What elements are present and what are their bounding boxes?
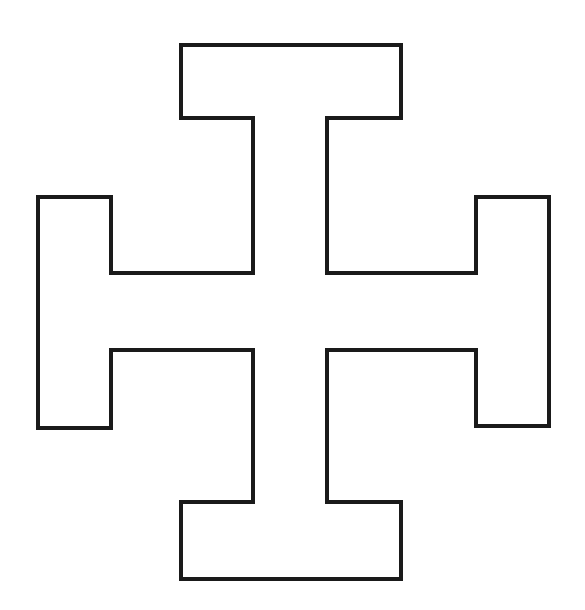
cross-potent-figure [0, 0, 585, 610]
background [0, 0, 585, 610]
diagram-canvas: Cross potent (Jerusalem-style T-cross) o… [0, 0, 585, 610]
